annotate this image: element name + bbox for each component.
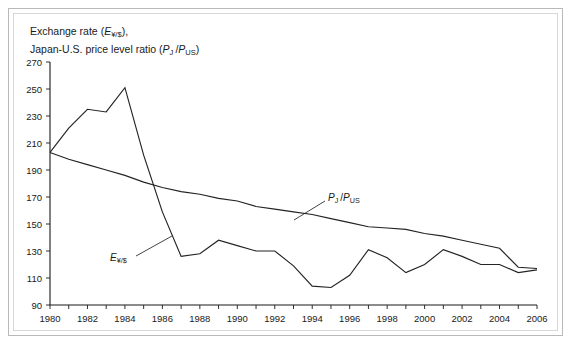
y-axis-tick-label: 170 xyxy=(16,192,42,203)
x-axis-tick-label: 1994 xyxy=(292,313,332,324)
y-axis-tick-label: 110 xyxy=(16,273,42,284)
x-axis-tick-label: 2006 xyxy=(517,313,557,324)
x-axis-tick-label: 1988 xyxy=(180,313,220,324)
figure-container: Exchange rate (E¥/$), Japan-U.S. price l… xyxy=(0,0,571,344)
x-axis-tick-label: 2004 xyxy=(480,313,520,324)
x-axis-tick-label: 1998 xyxy=(367,313,407,324)
x-axis-tick-label: 1986 xyxy=(142,313,182,324)
x-axis-tick-label: 1982 xyxy=(67,313,107,324)
y-axis-tick-label: 230 xyxy=(16,111,42,122)
x-axis-tick-label: 2002 xyxy=(442,313,482,324)
y-axis-tick-label: 270 xyxy=(16,57,42,68)
x-axis-tick-label: 2000 xyxy=(405,313,445,324)
series-label-exchange-rate: E¥/$ xyxy=(110,252,127,265)
y-axis-tick-label: 130 xyxy=(16,246,42,257)
series-label-price-ratio: PJ /PUS xyxy=(328,192,360,205)
x-axis-tick-label: 1992 xyxy=(255,313,295,324)
y-axis-tick-label: 250 xyxy=(16,84,42,95)
x-axis-tick-label: 1980 xyxy=(30,313,70,324)
y-axis-tick-label: 150 xyxy=(16,219,42,230)
plot-area xyxy=(0,0,571,344)
x-axis-tick-label: 1990 xyxy=(217,313,257,324)
annotation-leader-lines xyxy=(136,201,325,256)
x-axis-tick-label: 1984 xyxy=(105,313,145,324)
y-axis-tick-label: 90 xyxy=(16,300,42,311)
y-axis-tick-label: 190 xyxy=(16,165,42,176)
y-axis-tick-label: 210 xyxy=(16,138,42,149)
axis-ticks xyxy=(46,62,537,309)
x-axis-tick-label: 1996 xyxy=(330,313,370,324)
axes xyxy=(50,62,537,305)
